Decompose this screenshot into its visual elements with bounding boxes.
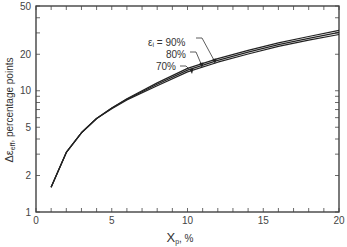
- x-axis-label: Xp, %: [166, 230, 193, 246]
- series-annotations: εᵢ = 90%80%70%: [148, 37, 217, 74]
- y-axis-label: Δεeff, percentage points: [3, 58, 16, 163]
- y-tick-label: 10: [20, 85, 32, 96]
- series-line: [51, 32, 339, 187]
- plot-border: [36, 6, 339, 212]
- x-tick-label: 0: [33, 215, 39, 226]
- series-line: [51, 35, 339, 188]
- y-tick-label: 50: [20, 1, 32, 12]
- y-tick-label: 2: [25, 170, 31, 181]
- data-curves: [51, 30, 339, 187]
- x-tick-label: 5: [109, 215, 115, 226]
- y-tick-label: 1: [25, 207, 31, 218]
- annotation-label: 80%: [166, 49, 186, 60]
- y-tick-label: 5: [25, 122, 31, 133]
- series-line: [51, 30, 339, 187]
- y-tick-label: 20: [20, 49, 32, 60]
- x-tick-label: 20: [333, 215, 345, 226]
- axis-ticks: 05101520125102050: [20, 1, 345, 227]
- plot-frame: [36, 6, 339, 212]
- x-tick-label: 10: [182, 215, 194, 226]
- x-tick-label: 15: [258, 215, 270, 226]
- annotation-label: 70%: [156, 61, 176, 72]
- annotation-label: εᵢ = 90%: [148, 37, 186, 48]
- chart: 05101520125102050 εᵢ = 90%80%70% Xp, % Δ…: [0, 0, 347, 247]
